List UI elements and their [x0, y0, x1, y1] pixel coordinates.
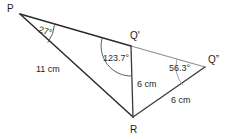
geometry-diagram: P Q' Q” R 27° 123.7° 56.3° 11 cm 6 cm 6 … [0, 0, 227, 139]
side-label-qprime-r: 6 cm [137, 79, 157, 89]
segment-qprime-qdbl [131, 46, 205, 67]
angle-label-qdbl: 56.3° [169, 63, 191, 73]
vertex-label-qprime: Q' [130, 30, 140, 41]
vertex-label-p: P [7, 3, 14, 14]
side-label-pr: 11 cm [36, 64, 60, 74]
angle-label-qprime: 123.7° [103, 53, 130, 63]
vertex-label-qdbl: Q” [208, 54, 219, 65]
geometry-canvas: P Q' Q” R 27° 123.7° 56.3° 11 cm 6 cm 6 … [0, 0, 227, 139]
side-label-qdbl-r: 6 cm [171, 95, 191, 105]
angle-label-p: 27° [37, 24, 53, 37]
angle-label-group: 27° 123.7° 56.3° [37, 24, 190, 73]
segment-qdbl-r [133, 67, 205, 117]
segment-qprime-r [131, 46, 133, 117]
vertex-label-r: R [130, 124, 137, 135]
